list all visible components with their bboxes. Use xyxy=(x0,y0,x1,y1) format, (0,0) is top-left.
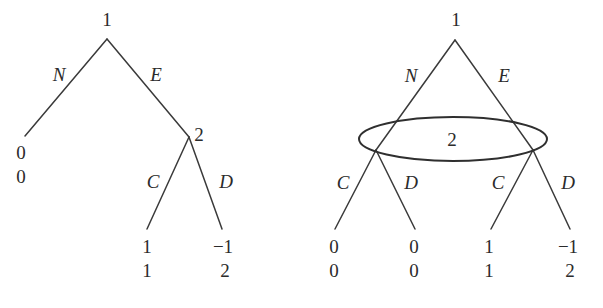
left-tree-root-player-label: 1 xyxy=(102,10,112,29)
right-tree-branch-N xyxy=(376,40,455,150)
left-tree-action-D: D xyxy=(219,172,233,191)
right-tree-action-E: E xyxy=(498,66,510,85)
right-tree-action-left-D: D xyxy=(404,173,418,192)
left-tree-branch-E xyxy=(107,39,189,137)
right-tree-action-N: N xyxy=(405,66,418,85)
right-tree-information-set-label: 2 xyxy=(447,130,457,149)
right-tree-payoff-EC-player2: 1 xyxy=(484,261,494,280)
left-tree-branch-N xyxy=(25,39,107,136)
left-tree-payoff-EC-player2: 1 xyxy=(142,261,152,280)
right-tree-payoff-ED-player1: −1 xyxy=(558,237,578,256)
right-tree-branch-E xyxy=(455,40,533,150)
left-tree-action-C: C xyxy=(147,172,160,191)
left-tree-node2-player-label: 2 xyxy=(194,125,204,144)
right-tree-action-right-D: D xyxy=(561,173,575,192)
right-tree-payoff-ND-player1: 0 xyxy=(409,237,419,256)
left-tree-action-N: N xyxy=(53,65,66,84)
right-tree-payoff-EC-player1: 1 xyxy=(484,237,494,256)
right-tree-payoff-NC-player2: 0 xyxy=(329,261,339,280)
game-tree-figure: 1 N E 2 C D 0 0 1 1 −1 2 1 N E 2 C D C D… xyxy=(0,0,603,308)
left-tree-payoff-N-player2: 0 xyxy=(16,167,26,186)
left-tree-payoff-ED-player1: −1 xyxy=(213,237,233,256)
right-tree-action-left-C: C xyxy=(337,173,350,192)
tree-line-canvas xyxy=(0,0,603,308)
left-tree-branch-D xyxy=(189,137,222,229)
left-tree-payoff-EC-player1: 1 xyxy=(142,237,152,256)
right-tree-action-right-C: C xyxy=(492,173,505,192)
right-tree-payoff-ED-player2: 2 xyxy=(565,261,575,280)
left-tree-action-E: E xyxy=(150,65,162,84)
right-tree-root-player-label: 1 xyxy=(451,10,461,29)
left-tree-payoff-N-player1: 0 xyxy=(16,143,26,162)
right-tree-payoff-ND-player2: 0 xyxy=(409,261,419,280)
right-tree-payoff-NC-player1: 0 xyxy=(329,237,339,256)
left-tree-payoff-ED-player2: 2 xyxy=(220,261,230,280)
